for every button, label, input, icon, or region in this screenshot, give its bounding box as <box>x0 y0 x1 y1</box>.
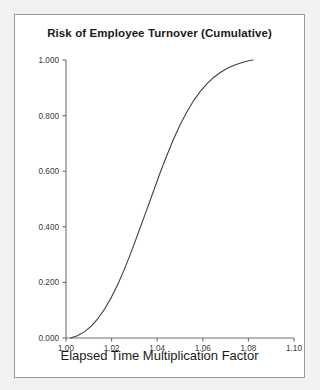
y-tick-label: 0.400 <box>39 223 60 232</box>
y-tick-label: 0.800 <box>39 112 60 121</box>
series-line <box>71 60 253 338</box>
figure-frame: Risk of Employee Turnover (Cumulative) 0… <box>14 14 305 378</box>
chart-plot-area: 0.0000.2000.4000.6000.8001.000 1.001.021… <box>15 15 304 377</box>
y-tick-label: 0.200 <box>39 278 60 287</box>
x-axis-label: Elapsed Time Multiplication Factor <box>15 348 304 363</box>
y-tick-label: 1.000 <box>39 56 60 65</box>
data-series-group <box>71 60 253 338</box>
y-tick-label: 0.600 <box>39 167 60 176</box>
y-axis: 0.0000.2000.4000.6000.8001.000 <box>39 56 67 343</box>
y-tick-label: 0.000 <box>39 334 60 343</box>
